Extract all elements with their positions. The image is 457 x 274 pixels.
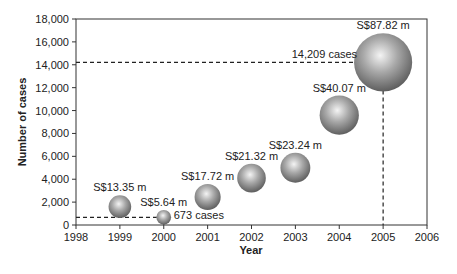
y-tick-label: 12,000 (35, 82, 69, 94)
bubble (109, 195, 132, 218)
bubble (280, 153, 310, 183)
y-tick-label: 14,000 (35, 59, 69, 71)
bubble (195, 184, 221, 210)
y-axis: 02,0004,0006,0008,00010,00012,00014,0001… (35, 13, 76, 231)
y-tick-label: 8,000 (41, 127, 69, 139)
y-tick-label: 6,000 (41, 150, 69, 162)
x-tick-label: 2005 (371, 231, 395, 243)
bubble-chart: 02,0004,0006,0008,00010,00012,00014,0001… (0, 0, 457, 274)
case-annotation: 673 cases (174, 209, 225, 221)
bubble-value-label: S$5.64 m (140, 196, 187, 208)
y-axis-title: Number of cases (16, 78, 28, 167)
x-tick-label: 1999 (108, 231, 132, 243)
x-tick-label: 2000 (152, 231, 176, 243)
y-tick-label: 2,000 (41, 196, 69, 208)
bubble-value-label: S$23.24 m (269, 139, 322, 151)
x-tick-label: 2002 (239, 231, 263, 243)
bubble (320, 96, 359, 135)
bubble (156, 210, 171, 225)
y-tick-label: 10,000 (35, 105, 69, 117)
y-tick-label: 0 (63, 219, 69, 231)
y-tick-label: 4,000 (41, 173, 69, 185)
case-annotation: 14,209 cases (292, 48, 358, 60)
bubble-value-label: S$40.07 m (313, 82, 366, 94)
x-tick-label: 2006 (415, 231, 439, 243)
y-tick-label: 18,000 (35, 13, 69, 25)
y-tick-label: 16,000 (35, 36, 69, 48)
x-tick-label: 2003 (283, 231, 307, 243)
x-axis: 199819992000200120022003200420052006 (64, 225, 439, 243)
bubble-value-label: S$13.35 m (93, 181, 146, 193)
bubble-value-label: S$17.72 m (181, 170, 234, 182)
bubble-value-label: S$21.32 m (225, 150, 278, 162)
bubble-value-label: S$87.82 m (357, 19, 410, 31)
x-tick-label: 2004 (327, 231, 351, 243)
x-tick-label: 2001 (195, 231, 219, 243)
x-axis-title: Year (239, 244, 263, 256)
bubble (237, 164, 266, 193)
x-tick-label: 1998 (64, 231, 88, 243)
